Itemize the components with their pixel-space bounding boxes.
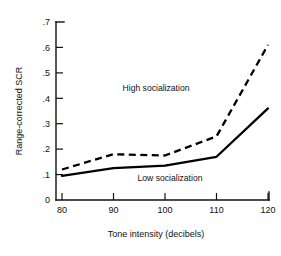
y-axis-ticks (56, 47, 63, 174)
y-tick-label-0: 0 (45, 195, 50, 205)
x-tick-label-120: 120 (260, 205, 275, 215)
x-tick-label-80: 80 (57, 205, 67, 215)
y-axis-title: Range-corrected SCR (14, 66, 24, 155)
annotation-low-socialization: Low socialization (138, 173, 203, 183)
y-tick-label-0.3: .3 (42, 119, 50, 129)
x-axis-ticks (62, 193, 268, 200)
y-tick-label-0.2: .2 (42, 144, 50, 154)
y-tick-label-0.4: .4 (42, 94, 50, 104)
y-tick-label-0.1: .1 (42, 170, 50, 180)
annotation-high-socialization: High socialization (123, 83, 190, 93)
series-line-high-socialization (62, 45, 268, 170)
x-tick-label-110: 110 (209, 205, 223, 215)
x-tick-label-90: 90 (108, 205, 118, 215)
x-axis-title: Tone intensity (decibels) (108, 229, 205, 239)
series-line-low-socialization (62, 108, 268, 175)
y-tick-label-0.5: .5 (42, 68, 50, 78)
x-tick-label-100: 100 (157, 205, 172, 215)
line-chart: .7 .6 .5 .4 .3 .2 .1 0 80 90 100 110 120… (0, 0, 281, 256)
y-tick-label-0.7: .7 (42, 17, 50, 27)
chart-figure: .7 .6 .5 .4 .3 .2 .1 0 80 90 100 110 120… (0, 0, 281, 256)
y-tick-label-0.6: .6 (42, 43, 50, 53)
